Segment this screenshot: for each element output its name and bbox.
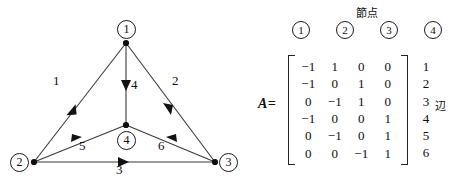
matrix-bracketed-body: −1 1 0 0 −1 0 1 0 0 −1 1 0	[291, 55, 405, 165]
directed-graph-panel: 1 2 3 4 1 2 3 4 5 6	[0, 0, 236, 184]
graph-edge-label-6: 6	[158, 139, 165, 152]
incidence-matrix-panel: 節点 1 2 3 4 A= −1 1 0 0 −1 0 1	[236, 0, 464, 184]
matrix-row: 0 −1 0 1	[295, 127, 401, 144]
graph-node-badge-4: 4	[117, 131, 136, 150]
matrix-row: 0 −1 1 0	[295, 93, 401, 110]
matrix-cell: 0	[295, 129, 322, 142]
graph-edge-label-1: 1	[53, 74, 60, 87]
matrix-cell: 0	[375, 95, 402, 108]
matrix-right-bracket	[401, 55, 408, 165]
matrix-row-label: 4	[418, 110, 434, 127]
matrix-cell: 0	[348, 129, 375, 142]
matrix-cell: 0	[295, 95, 322, 108]
matrix-row: −1 1 0 0	[295, 58, 401, 75]
matrix-cell: −1	[322, 129, 349, 142]
matrix-cell: 1	[375, 129, 402, 142]
matrix-row-label: 2	[418, 75, 434, 92]
matrix-row-label: 6	[418, 144, 434, 161]
graph-node-badge-2: 2	[10, 153, 29, 172]
matrix-cell: 0	[348, 112, 375, 125]
graph-edge-6-arrow-glyph	[166, 134, 177, 142]
graph-vertex-dot-2	[31, 159, 37, 165]
matrix-cell: 1	[322, 60, 349, 73]
graph-vertex-dot-4	[123, 122, 129, 128]
matrix-row-label: 3	[418, 93, 434, 110]
graph-edge-label-2: 2	[172, 74, 179, 87]
matrix-row: −1 0 1 0	[295, 75, 401, 92]
graph-edge-2-arrow-glyph	[163, 103, 173, 115]
matrix-row: −1 0 0 1	[295, 110, 401, 127]
matrix-cell: −1	[348, 147, 375, 160]
graph-edge-1-arrow-glyph	[66, 103, 77, 116]
matrix-cell: 1	[375, 112, 402, 125]
matrix-row-label: 5	[418, 127, 434, 144]
matrix-cell: 0	[375, 77, 402, 90]
matrix-cell: 0	[375, 60, 402, 73]
matrix-cell: −1	[295, 60, 322, 73]
graph-node-badge-1: 1	[117, 20, 136, 39]
matrix-column-badge-2: 2	[336, 21, 354, 39]
matrix-column-badge-4: 4	[424, 21, 442, 39]
graph-edge-label-5: 5	[79, 139, 86, 152]
matrix-row-group-label: 辺	[435, 101, 446, 113]
matrix-row-label: 1	[418, 58, 434, 75]
matrix-cell: −1	[295, 112, 322, 125]
matrix-grid: −1 1 0 0 −1 0 1 0 0 −1 1 0	[295, 58, 401, 162]
graph-vertex-dot-3	[212, 159, 218, 165]
matrix-column-headers: 1 2 3 4	[292, 21, 442, 39]
graph-edge-4-arrow-glyph	[121, 80, 131, 91]
matrix-cell: −1	[322, 95, 349, 108]
matrix-cell: −1	[295, 77, 322, 90]
incidence-matrix-figure: 1 2 3 4 1 2 3 4 5 6 節点 1 2 3 4 A= −1 1	[0, 0, 464, 184]
matrix-cell: 0	[322, 147, 349, 160]
matrix-column-group-label: 節点	[332, 8, 402, 20]
matrix-row: 0 0 −1 1	[295, 144, 401, 161]
matrix-name-label: A=	[258, 96, 276, 112]
matrix-cell: 1	[375, 147, 402, 160]
matrix-cell: 0	[295, 147, 322, 160]
matrix-left-bracket	[288, 55, 295, 165]
matrix-column-badge-3: 3	[380, 21, 398, 39]
matrix-cell: 1	[348, 95, 375, 108]
matrix-cell: 1	[348, 77, 375, 90]
matrix-column-badge-1: 1	[292, 21, 310, 39]
graph-edge-2	[126, 43, 215, 162]
matrix-cell: 0	[322, 112, 349, 125]
graph-edge-label-3: 3	[116, 163, 123, 176]
matrix-cell: 0	[348, 60, 375, 73]
graph-edge-label-4: 4	[131, 78, 138, 91]
graph-vertex-dot-1	[123, 40, 129, 46]
matrix-cell: 0	[322, 77, 349, 90]
matrix-row-labels: 1 2 3 4 5 6	[418, 58, 434, 162]
